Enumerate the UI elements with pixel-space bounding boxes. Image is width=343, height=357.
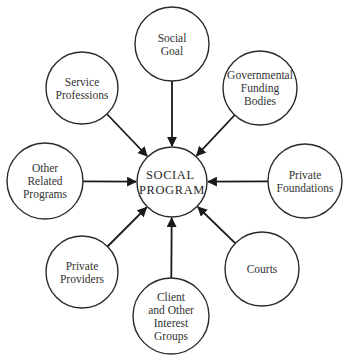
node-label-line: Client (157, 291, 186, 303)
arrow-service-professions-to-center (107, 114, 147, 156)
node-label-line: Groups (154, 330, 188, 343)
node-label-line: Professions (55, 89, 109, 101)
node-social-goal: SocialGoal (135, 7, 209, 81)
node-label: PrivateProviders (60, 260, 105, 285)
node-label-line: Other (32, 162, 58, 174)
node-label-line: Private (66, 260, 99, 272)
arrow-governmental-funding-bodies-to-center (197, 115, 235, 156)
node-label-line: Service (65, 76, 99, 88)
center-label-line: SOCIAL (146, 168, 194, 182)
node-label-line: and Other (148, 304, 194, 316)
node-other-related-programs: OtherRelatedPrograms (7, 143, 83, 219)
center-circle (137, 147, 207, 217)
node-label-line: Bodies (244, 95, 276, 107)
node-label-line: Funding (241, 82, 280, 95)
center-label: SOCIAL PROGRAM (139, 168, 205, 197)
social-program-diagram: SocialGoalGovernmentalFundingBodiesPriva… (0, 0, 343, 357)
node-label-line: Foundations (277, 182, 334, 194)
node-label-line: Governmental (227, 69, 293, 81)
node-label-line: Related (27, 175, 62, 187)
node-label-line: Goal (161, 45, 183, 57)
node-label: Courts (247, 263, 278, 275)
center-label-line: PROGRAM (139, 183, 205, 197)
node-client-and-other-interest-groups: Clientand OtherInterestGroups (133, 278, 209, 354)
node-service-professions: ServiceProfessions (46, 52, 118, 124)
node-label-line: Programs (23, 188, 68, 201)
node-private-providers: PrivateProviders (46, 236, 118, 308)
node-label-line: Providers (60, 273, 105, 285)
arrow-private-providers-to-center (108, 208, 147, 247)
node-private-foundations: PrivateFoundations (268, 144, 342, 218)
arrow-courts-to-center (198, 207, 236, 243)
node-label-line: Courts (247, 263, 278, 275)
node-label-line: Private (289, 169, 322, 181)
center-node-social-program: SOCIAL PROGRAM (137, 147, 207, 217)
node-governmental-funding-bodies: GovernmentalFundingBodies (223, 51, 297, 125)
node-label-line: Social (158, 32, 187, 44)
node-label-line: Interest (154, 317, 189, 329)
node-courts: Courts (225, 232, 299, 306)
node-label: SocialGoal (158, 32, 187, 57)
